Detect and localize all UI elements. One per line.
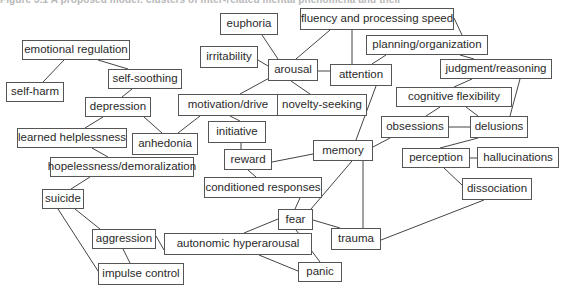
edge-autonomic-fear [244,219,278,233]
node-euphoria: euphoria [220,13,278,35]
node-label: panic [306,266,334,278]
node-label: fluency and processing speed [301,13,453,25]
node-label: euphoria [227,18,272,30]
node-label: aggression [96,233,152,245]
node-label: learned helplessness [18,132,126,144]
node-fluency: fluency and processing speed [300,8,454,30]
edge-attention-planning [372,55,386,64]
edge-autonomic-panic [259,255,298,271]
node-label: novelty-seeking [282,99,362,111]
node-label: arousal [274,64,312,76]
node-label: depression [90,101,146,113]
node-label: attention [339,69,383,81]
node-label: self-soothing [112,73,177,85]
edge-depression-anhedonia [144,117,162,133]
edge-aggression-autonomic [156,236,164,250]
edge-conditioned-reward [248,170,256,177]
node-conditioned: conditioned responses [204,177,322,198]
node-label: autonomic hyperarousal [177,238,300,250]
node-label: obsessions [386,121,444,133]
node-memory: memory [313,140,373,161]
edge-perception-dissociation [444,168,462,185]
node-label: self-harm [11,86,59,98]
edge-depression-learned [85,117,103,128]
node-label: hallucinations [483,152,553,164]
node-anhedonia: anhedonia [132,133,198,155]
edge-aggression-impulse [123,249,130,263]
node-label: irritability [206,51,251,63]
edge-cogflex-delusions [466,107,478,116]
edge-anhedonia-motivation [178,116,200,133]
node-suicide: suicide [42,189,84,209]
node-irritability: irritability [200,46,258,68]
node-label: anhedonia [138,138,192,150]
edge-reward-memory [272,154,313,162]
node-aggression: aggression [92,229,156,249]
node-novelty: novelty-seeking [277,94,367,116]
node-attention: attention [330,64,392,86]
node-reward: reward [224,149,272,170]
edge-hopeless-suicide [71,177,90,189]
edge-emoreg-selfsoothing [98,60,128,69]
node-label: suicide [45,193,81,205]
node-label: fear [286,214,306,226]
node-label: delusions [475,121,524,133]
node-label: reward [230,154,265,166]
edge-arousal-euphoria [262,35,278,59]
node-obsessions: obsessions [381,116,449,138]
node-label: emotional regulation [24,44,128,56]
node-label: memory [322,145,364,157]
node-selfharm: self-harm [6,82,64,102]
node-impulse: impulse control [98,263,184,285]
node-label: initiative [216,126,258,138]
edge-emoreg-selfharm [43,60,64,82]
edge-suicide-aggression [75,209,100,229]
edge-selfsoothing-depression [122,89,132,97]
edge-fear-conditioned [295,198,300,209]
node-label: motivation/drive [188,99,269,111]
node-label: conditioned responses [205,182,320,194]
node-panic: panic [298,262,342,282]
edge-cogflex-obsessions [426,107,440,116]
node-judgment: judgment/reasoning [440,59,552,79]
edge-delusions-perception [440,138,478,148]
node-hopeless: hopelessness/demoralization [50,157,194,177]
edge-arousal-novelty [291,81,310,94]
edge-arousal-fluency [296,30,330,59]
node-cogflex: cognitive flexibility [396,87,512,107]
node-selfsoothing: self-soothing [108,69,182,89]
node-autonomic: autonomic hyperarousal [164,233,312,255]
node-perception: perception [402,148,470,168]
node-label: hopelessness/demoralization [48,161,196,173]
edge-arousal-irritability [258,60,268,66]
edge-judgment-cogflex [454,79,472,87]
edge-fear-trauma [313,220,340,228]
edge-learned-hopeless [92,148,108,157]
node-label: planning/organization [372,39,481,51]
node-label: perception [409,152,463,164]
node-depression: depression [85,97,151,117]
node-emoreg: emotional regulation [22,40,130,60]
node-planning: planning/organization [366,35,488,55]
node-motivation: motivation/drive [178,94,278,116]
node-arousal: arousal [268,59,318,81]
node-initiative: initiative [208,121,266,143]
node-trauma: trauma [331,228,381,250]
node-delusions: delusions [470,116,528,138]
node-label: impulse control [102,268,179,280]
node-label: trauma [338,233,374,245]
node-learned: learned helplessness [17,128,127,148]
node-hallucinations: hallucinations [477,147,559,168]
node-label: cognitive flexibility [408,91,500,103]
edge-obsessions-memory [373,138,390,147]
node-label: dissociation [467,183,527,195]
node-dissociation: dissociation [462,178,532,200]
edge-trauma-dissociation [381,200,484,240]
node-label: judgment/reasoning [445,63,546,75]
edge-fluency-planning [454,18,462,35]
node-fear: fear [278,209,313,230]
